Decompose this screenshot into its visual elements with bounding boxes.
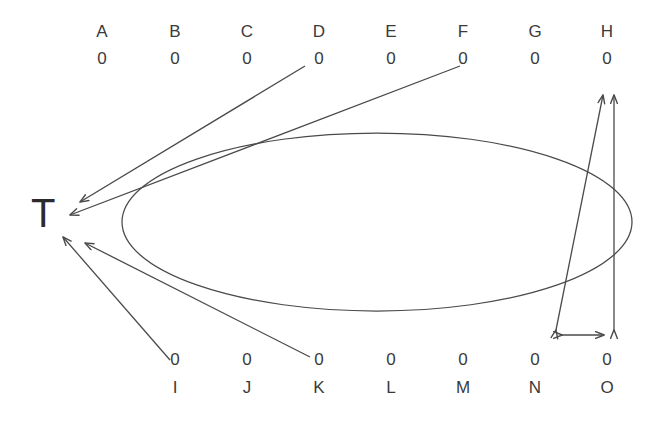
node-label-l: L — [376, 378, 406, 398]
node-value-c: 0 — [232, 49, 262, 69]
node-label-i: I — [160, 378, 190, 398]
node-label-j: J — [232, 378, 262, 398]
node-label-g: G — [520, 22, 550, 42]
node-value-h: 0 — [592, 49, 622, 69]
node-value-a: 0 — [87, 49, 117, 69]
node-label-k: K — [304, 378, 334, 398]
ring-ellipse — [122, 133, 632, 311]
node-label-c: C — [232, 22, 262, 42]
arrow-from-i-to-target — [63, 237, 170, 360]
arrow-from-k-to-target — [85, 243, 310, 357]
node-value-j: 0 — [232, 350, 262, 370]
node-value-e: 0 — [376, 49, 406, 69]
node-value-l: 0 — [376, 350, 406, 370]
node-value-f: 0 — [448, 49, 478, 69]
slanted-vertical-double-arrow — [556, 95, 603, 330]
node-label-b: B — [160, 22, 190, 42]
node-value-k: 0 — [304, 350, 334, 370]
node-value-g: 0 — [520, 49, 550, 69]
node-label-e: E — [376, 22, 406, 42]
arrow-from-f-to-target — [70, 66, 460, 215]
node-label-f: F — [448, 22, 478, 42]
node-label-a: A — [87, 22, 117, 42]
target-node-label: T — [31, 193, 55, 233]
arrow-from-d-to-target — [80, 66, 305, 202]
node-value-o: 0 — [592, 350, 622, 370]
node-label-h: H — [592, 22, 622, 42]
node-value-m: 0 — [448, 350, 478, 370]
node-value-d: 0 — [304, 49, 334, 69]
node-value-i: 0 — [160, 350, 190, 370]
node-label-d: D — [304, 22, 334, 42]
node-label-m: M — [448, 378, 478, 398]
node-label-o: O — [592, 378, 622, 398]
node-value-n: 0 — [520, 350, 550, 370]
node-label-n: N — [520, 378, 550, 398]
diagram-canvas: T A B C D E F G H 0 0 0 0 0 0 0 0 0 0 0 … — [0, 0, 654, 434]
node-value-b: 0 — [160, 49, 190, 69]
